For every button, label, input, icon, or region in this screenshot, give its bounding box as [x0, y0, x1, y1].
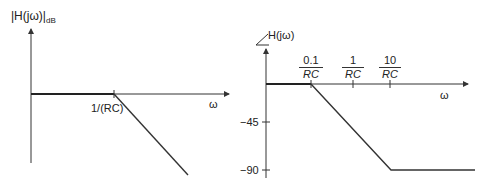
magnitude-plot: [31, 29, 229, 175]
magnitude-y-label-sub: dB: [46, 16, 56, 25]
tick-label-10: 10RC: [379, 55, 401, 80]
phase-x-label: ω: [440, 90, 449, 101]
tick-label-1: 1RC: [342, 55, 364, 80]
magnitude-y-label-main: |H(jω)|: [11, 9, 46, 23]
magnitude-y-label: |H(jω)|dB: [11, 10, 56, 25]
tick-den: RC: [299, 68, 323, 80]
phase-y-label: H(jω): [268, 30, 294, 41]
magnitude-rolloff-asymptote: [114, 94, 188, 175]
magnitude-x-label: ω: [209, 99, 218, 110]
tick-den: RC: [379, 68, 401, 80]
corner-frequency-label: 1/(RC): [91, 103, 123, 114]
tick-label-0.1: 0.1RC: [299, 55, 323, 80]
y-tick-label-minus90: −90: [240, 165, 259, 176]
phase-asymptote: [311, 84, 475, 170]
phase-plot: [256, 34, 475, 178]
tick-num: 1: [342, 55, 364, 68]
y-tick-label-minus45: −45: [240, 117, 259, 128]
tick-num: 10: [379, 55, 401, 68]
tick-den: RC: [342, 68, 364, 80]
tick-num: 0.1: [299, 55, 323, 68]
bode-plots: [0, 0, 486, 190]
